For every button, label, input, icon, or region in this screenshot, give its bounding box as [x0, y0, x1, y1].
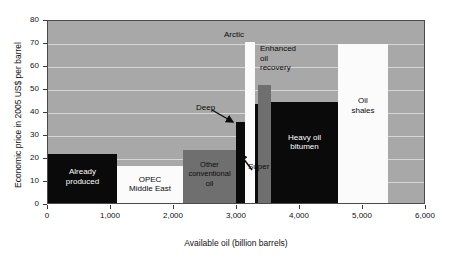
x-axis-label: Available oil (billion barrels) — [47, 238, 425, 248]
annotation-super-deep: Super deep — [248, 162, 289, 172]
y-tick-label: 80 — [15, 15, 39, 24]
plot-area: Already produced OPEC Middle East Other … — [47, 20, 425, 204]
x-tick-label: 0 — [27, 211, 67, 220]
x-tick-label: 2,000 — [153, 211, 193, 220]
x-tickmark — [47, 205, 48, 209]
y-tickmark — [43, 43, 47, 44]
x-tickmark — [425, 205, 426, 209]
x-tick-label: 3,000 — [216, 211, 256, 220]
x-tickmark — [236, 205, 237, 209]
bar-other-conventional-oil[interactable]: Other conventional oil — [183, 150, 236, 204]
y-tickmark — [43, 181, 47, 182]
bar-label-opec-middle-east: OPEC Middle East — [117, 175, 183, 194]
bar-label-oil-shales: Oil shales — [338, 96, 388, 115]
y-tickmark — [43, 158, 47, 159]
chart-figure: Already produced OPEC Middle East Other … — [0, 0, 454, 260]
annotation-arctic: Arctic — [224, 30, 244, 40]
y-tickmark — [43, 89, 47, 90]
x-tickmark — [173, 205, 174, 209]
bar-label-heavy-oil-bitumen: Heavy oil bitumen — [271, 133, 338, 152]
x-tick-label: 4,000 — [279, 211, 319, 220]
y-tickmark — [43, 135, 47, 136]
x-tick-label: 1,000 — [90, 211, 130, 220]
bar-arctic[interactable] — [245, 42, 255, 204]
bar-enhanced-oil-recovery[interactable] — [258, 85, 271, 204]
annotation-enhanced-oil-recovery: Enhanced oil recovery — [260, 44, 296, 73]
y-tickmark — [43, 20, 47, 21]
annotation-deep: Deep — [196, 103, 215, 113]
bar-oil-shales[interactable]: Oil shales — [338, 44, 388, 204]
y-tickmark — [43, 112, 47, 113]
bar-label-other-conventional-oil: Other conventional oil — [183, 160, 236, 189]
y-tickmark — [43, 66, 47, 67]
bar-deep[interactable] — [236, 122, 245, 204]
x-tickmark — [110, 205, 111, 209]
x-tick-label: 6,000 — [405, 211, 445, 220]
bar-label-already-produced: Already produced — [48, 167, 117, 186]
x-tick-label: 5,000 — [342, 211, 382, 220]
y-axis-label: Economic price in 2005 US$ per barrel — [13, 25, 23, 205]
bar-opec-middle-east[interactable]: OPEC Middle East — [117, 166, 183, 204]
bar-already-produced[interactable]: Already produced — [48, 154, 117, 204]
bar-heavy-oil-bitumen[interactable]: Heavy oil bitumen — [271, 102, 338, 205]
x-tickmark — [362, 205, 363, 209]
x-tickmark — [299, 205, 300, 209]
